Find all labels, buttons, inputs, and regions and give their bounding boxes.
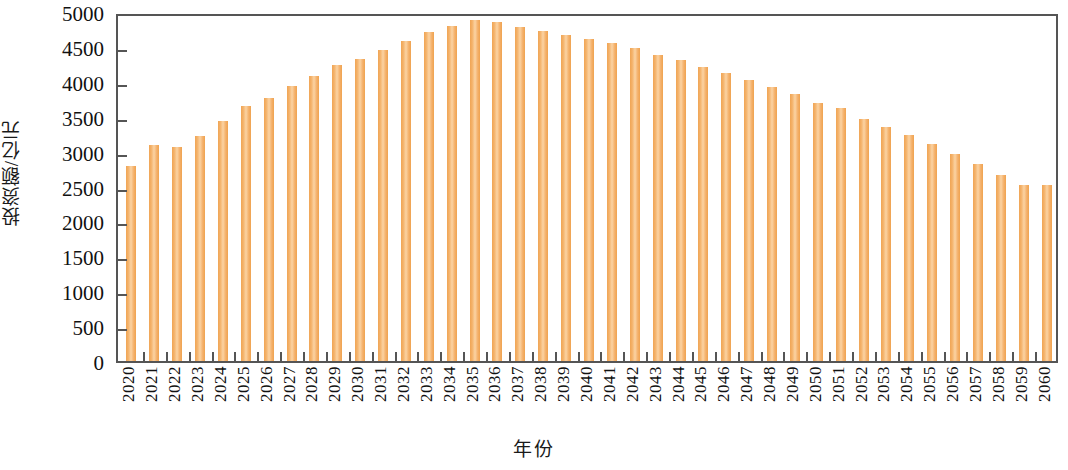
- y-axis-tick-label: 4500: [62, 38, 104, 59]
- x-axis-tick-label: 2054: [898, 366, 915, 402]
- bar: [881, 127, 891, 361]
- y-axis-tick-label: 2500: [62, 178, 104, 199]
- x-axis-tick-label: 2048: [761, 366, 778, 402]
- y-axis-tick-label: 1000: [62, 283, 104, 304]
- x-axis-tick-mark: [715, 352, 717, 361]
- bar: [332, 65, 342, 361]
- x-axis-tick-mark: [852, 352, 854, 361]
- x-axis-tick-mark: [578, 352, 580, 361]
- bar: [653, 55, 663, 361]
- x-axis-tick-mark: [829, 352, 831, 361]
- y-axis-tick-mark: [118, 50, 127, 52]
- x-axis-tick-label: 2031: [372, 366, 389, 402]
- bar: [927, 144, 937, 361]
- x-axis-tick-label: 2060: [1036, 366, 1053, 402]
- y-axis-tick-label: 3000: [62, 143, 104, 164]
- bar: [492, 22, 502, 361]
- bar: [401, 41, 411, 361]
- bar: [378, 50, 388, 361]
- y-axis-tick-labels: 0500100015002000250030003500400045005000: [28, 0, 110, 470]
- bar: [996, 175, 1006, 361]
- bar: [790, 94, 800, 361]
- y-axis-tick-mark: [118, 224, 127, 226]
- x-axis-tick-mark: [166, 352, 168, 361]
- x-axis-tick-label: 2026: [258, 366, 275, 402]
- bar: [149, 145, 159, 361]
- x-axis-tick-label: 2041: [601, 366, 618, 402]
- bar: [218, 121, 228, 361]
- x-axis-tick-label: 2050: [807, 366, 824, 402]
- x-axis-tick-label: 2049: [784, 366, 801, 402]
- x-axis-tick-mark: [257, 352, 259, 361]
- x-axis-tick-mark: [989, 352, 991, 361]
- x-axis-tick-label: 2027: [281, 366, 298, 402]
- bar: [172, 147, 182, 361]
- x-axis-tick-mark: [372, 352, 374, 361]
- x-axis-tick-label: 2043: [647, 366, 664, 402]
- x-axis-tick-label: 2029: [326, 366, 343, 402]
- x-axis-tick-mark: [486, 352, 488, 361]
- x-axis-tick-label: 2036: [486, 366, 503, 402]
- x-axis-tick-label: 2024: [212, 366, 229, 402]
- x-axis-tick-mark: [463, 352, 465, 361]
- x-axis-tick-label: 2039: [555, 366, 572, 402]
- bar: [126, 166, 136, 361]
- x-axis-tick-label: 2030: [349, 366, 366, 402]
- x-axis-tick-mark: [898, 352, 900, 361]
- x-axis-tick-label: 2032: [395, 366, 412, 402]
- y-axis-tick-label: 4000: [62, 73, 104, 94]
- x-axis-tick-label: 2046: [715, 366, 732, 402]
- bar: [538, 31, 548, 361]
- bar: [1042, 185, 1052, 361]
- x-axis-tick-mark: [738, 352, 740, 361]
- x-axis-tick-mark: [440, 352, 442, 361]
- x-axis-tick-label: 2044: [670, 366, 687, 402]
- bar-chart: 投资额/亿元 050010001500200025003000350040004…: [0, 0, 1068, 470]
- bar: [904, 135, 914, 361]
- x-axis-tick-label: 2056: [944, 366, 961, 402]
- bar: [561, 35, 571, 361]
- x-axis-tick-label: 2020: [120, 366, 137, 402]
- x-axis-tick-label: 2057: [967, 366, 984, 402]
- bar: [241, 106, 251, 361]
- bar: [698, 67, 708, 361]
- bar: [264, 98, 274, 361]
- x-axis-tick-label: 2034: [441, 366, 458, 402]
- bars-layer: [118, 16, 1056, 361]
- bar: [607, 43, 617, 361]
- y-axis-tick-label: 0: [94, 353, 105, 374]
- bar: [767, 87, 777, 361]
- bar: [676, 60, 686, 361]
- x-axis-tick-mark: [1012, 352, 1014, 361]
- x-axis-tick-mark: [280, 352, 282, 361]
- plot-area: [116, 14, 1058, 363]
- x-axis-tick-mark: [600, 352, 602, 361]
- x-axis-tick-label: 2037: [509, 366, 526, 402]
- x-axis-tick-label: 2045: [692, 366, 709, 402]
- x-axis-tick-label: 2033: [418, 366, 435, 402]
- y-axis-tick-mark: [118, 85, 127, 87]
- x-axis-tick-mark: [395, 352, 397, 361]
- x-axis-tick-mark: [623, 352, 625, 361]
- y-axis-tick-mark: [118, 190, 127, 192]
- x-axis-tick-mark: [921, 352, 923, 361]
- x-axis-tick-mark: [1035, 352, 1037, 361]
- x-axis-tick-label: 2059: [1013, 366, 1030, 402]
- x-axis-tick-label: 2022: [166, 366, 183, 402]
- x-axis-tick-mark: [349, 352, 351, 361]
- x-axis-tick-mark: [326, 352, 328, 361]
- y-axis-tick-label: 1500: [62, 248, 104, 269]
- x-axis-tick-mark: [646, 352, 648, 361]
- x-axis-tick-mark: [143, 352, 145, 361]
- x-axis-tick-mark: [875, 352, 877, 361]
- bar: [836, 108, 846, 361]
- x-axis-tick-mark: [509, 352, 511, 361]
- x-axis-tick-mark: [966, 352, 968, 361]
- x-axis-tick-label: 2053: [875, 366, 892, 402]
- x-axis-tick-label: 2025: [235, 366, 252, 402]
- x-axis-tick-mark: [532, 352, 534, 361]
- x-axis-tick-label: 2023: [189, 366, 206, 402]
- bar: [584, 39, 594, 361]
- y-axis-tick-label: 500: [73, 318, 105, 339]
- x-axis-tick-mark: [944, 352, 946, 361]
